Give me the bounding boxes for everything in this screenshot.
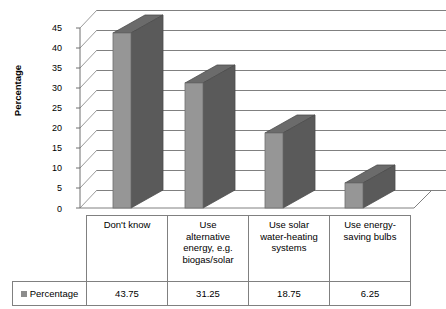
bar-use-alternative-energy[interactable] — [185, 65, 235, 208]
chart-3d-scene — [0, 0, 446, 215]
depth-connectors — [80, 10, 97, 208]
table-row-categories: Don't know Usealternativeenergy, e.g.bio… — [13, 216, 411, 282]
table-value-use-solar-water-heating: 18.75 — [249, 282, 330, 306]
chart-figure: Percentage 45 40 35 30 25 20 15 10 5 0 — [0, 0, 446, 309]
data-table: Don't know Usealternativeenergy, e.g.bio… — [12, 215, 411, 306]
table-corner-cell — [13, 216, 87, 282]
table-header-use-alternative-energy: Usealternativeenergy, e.g.biogas/solar — [168, 216, 249, 282]
y-axis-ticks — [76, 28, 80, 208]
table-row-values: Percentage 43.75 31.25 18.75 6.25 — [13, 282, 411, 306]
plot-area: Percentage 45 40 35 30 25 20 15 10 5 0 — [0, 0, 446, 215]
table-header-use-energy-saving-bulbs: Use energy-saving bulbs — [330, 216, 411, 282]
legend-label: Percentage — [30, 288, 79, 299]
table-value-use-energy-saving-bulbs: 6.25 — [330, 282, 411, 306]
bar-use-solar-water-heating[interactable] — [265, 115, 315, 208]
legend-swatch-icon — [21, 291, 27, 297]
table-header-dont-know: Don't know — [87, 216, 168, 282]
table-header-use-solar-water-heating: Use solarwater-heatingsystems — [249, 216, 330, 282]
legend-percentage: Percentage — [13, 282, 87, 306]
bar-use-energy-saving-bulbs[interactable] — [345, 165, 395, 208]
bar-dont-know[interactable] — [113, 15, 163, 208]
table-value-dont-know: 43.75 — [87, 282, 168, 306]
table-value-use-alternative-energy: 31.25 — [168, 282, 249, 306]
